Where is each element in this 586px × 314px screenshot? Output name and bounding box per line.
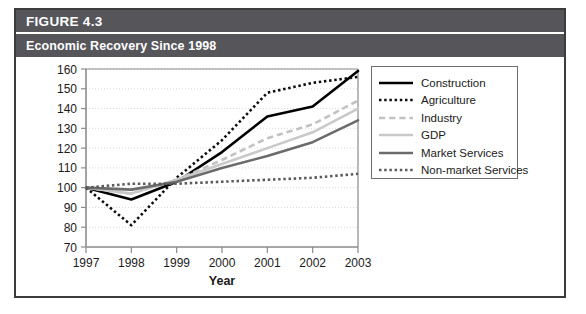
y-axis-tick-label: 150 bbox=[57, 82, 77, 96]
chart-legend: ConstructionAgricultureIndustryGDPMarket… bbox=[371, 66, 518, 179]
legend-swatch bbox=[378, 147, 414, 159]
y-axis-tick-label: 160 bbox=[57, 63, 77, 77]
x-axis-tick-label: 1998 bbox=[118, 256, 145, 270]
y-axis-tick-label: 110 bbox=[58, 161, 77, 175]
x-axis-title: Year bbox=[209, 274, 236, 288]
figure-number-bar: FIGURE 4.3 bbox=[16, 10, 564, 34]
legend-item: Construction bbox=[378, 74, 517, 92]
legend-label: Construction bbox=[421, 77, 486, 89]
figure-caption-label: Economic Recovery Since 1998 bbox=[16, 39, 216, 53]
legend-label: Agriculture bbox=[421, 94, 476, 106]
y-axis-tick-label: 130 bbox=[57, 122, 77, 136]
y-axis-tick-label: 90 bbox=[64, 201, 78, 215]
x-axis-tick-label: 2003 bbox=[345, 256, 372, 270]
legend-item: Agriculture bbox=[378, 92, 517, 110]
legend-swatch bbox=[378, 112, 414, 124]
x-axis-tick-label: 1997 bbox=[73, 256, 100, 270]
y-axis-tick-label: 80 bbox=[64, 221, 78, 235]
legend-swatch bbox=[378, 164, 414, 176]
x-axis-tick-label: 2001 bbox=[254, 256, 281, 270]
legend-item: Industry bbox=[378, 109, 517, 127]
x-axis-tick-label: 1999 bbox=[163, 256, 190, 270]
series-line bbox=[86, 101, 358, 194]
legend-item: GDP bbox=[378, 127, 517, 145]
legend-label: Industry bbox=[421, 112, 462, 124]
legend-swatch bbox=[378, 129, 414, 141]
y-axis-tick-label: 70 bbox=[64, 241, 78, 255]
legend-label: GDP bbox=[421, 129, 446, 141]
legend-label: Market Services bbox=[421, 147, 503, 159]
figure-card: FIGURE 4.3 Economic Recovery Since 1998 … bbox=[14, 8, 566, 298]
legend-label: Non-market Services bbox=[421, 164, 528, 176]
figure-caption-bar: Economic Recovery Since 1998 bbox=[16, 34, 564, 57]
figure-number-label: FIGURE 4.3 bbox=[16, 14, 103, 29]
x-axis-tick-label: 2000 bbox=[209, 256, 236, 270]
y-axis-tick-label: 120 bbox=[57, 142, 77, 156]
x-axis-tick-label: 2002 bbox=[299, 256, 326, 270]
y-axis-tick-label: 100 bbox=[57, 181, 77, 195]
series-line bbox=[86, 71, 358, 200]
y-axis-tick-label: 140 bbox=[57, 102, 77, 116]
chart-area: 7080901001101201301401501601997199819992… bbox=[16, 57, 564, 296]
legend-swatch bbox=[378, 77, 414, 89]
series-line bbox=[86, 174, 358, 188]
legend-item: Non-market Services bbox=[378, 162, 517, 180]
legend-swatch bbox=[378, 94, 414, 106]
legend-item: Market Services bbox=[378, 144, 517, 162]
